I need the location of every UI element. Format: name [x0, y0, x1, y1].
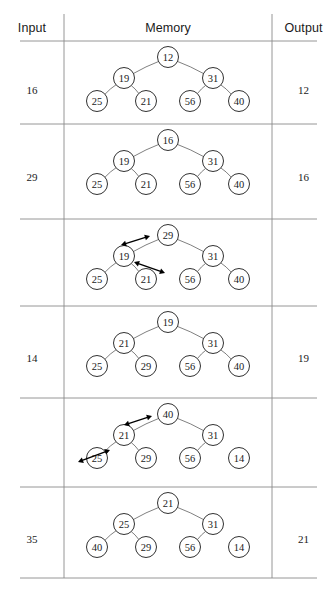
row-4-output-value: 19 [272, 352, 335, 364]
row-4-node-level3-3: 40 [229, 356, 250, 377]
node-value: 29 [163, 230, 174, 241]
node-value: 14 [234, 453, 245, 464]
node-value: 21 [119, 338, 130, 349]
row-3-edge-root-0 [133, 240, 158, 252]
trace-table-figure: Input Memory Output 12193125215640161931… [0, 0, 335, 596]
node-value: 31 [208, 338, 219, 349]
row-2-node-level3-0: 25 [87, 174, 108, 195]
row-6-edge-child-2 [197, 531, 205, 539]
node-value: 21 [163, 498, 174, 509]
node-value: 29 [141, 453, 152, 464]
row-4-node-root: 19 [158, 312, 179, 333]
node-value: 56 [185, 96, 196, 107]
row-2-edge-child-2 [197, 168, 205, 176]
row-4-node-level3-2: 56 [180, 356, 201, 377]
row-3-node-root: 29 [158, 225, 179, 246]
row-3-node-level3-2: 56 [180, 269, 201, 290]
row-6-node-level3-0: 40 [87, 537, 108, 558]
node-value: 25 [92, 361, 103, 372]
row-3-node-level3-0: 25 [87, 269, 108, 290]
row-2-node-level2-1: 31 [203, 151, 224, 172]
node-value: 56 [185, 542, 196, 553]
node-value: 56 [185, 179, 196, 190]
row-2-node-level3-3: 40 [229, 174, 250, 195]
node-value: 19 [119, 73, 130, 84]
row-1-node-level2-0: 19 [114, 68, 135, 89]
row-5-swap-arrow-root-left-shaft [127, 417, 149, 424]
node-value: 40 [234, 179, 245, 190]
row-3-edge-child-2 [197, 263, 205, 271]
row-1-edge-child-2 [197, 85, 205, 93]
row-2-edge-root-0 [133, 145, 158, 157]
row-2-output-value: 16 [272, 171, 335, 183]
row-6-node-level3-3: 14 [229, 537, 250, 558]
row-6-node-level3-2: 56 [180, 537, 201, 558]
row-4-node-level2-1: 31 [203, 333, 224, 354]
node-value: 40 [234, 274, 245, 285]
node-value: 19 [119, 251, 130, 262]
node-value: 31 [208, 73, 219, 84]
node-value: 25 [92, 274, 103, 285]
node-value: 14 [234, 542, 245, 553]
row-5-edge-root-1 [178, 418, 204, 430]
node-value: 40 [163, 409, 174, 420]
row-6-edge-root-0 [133, 508, 158, 520]
row-4-edge-root-1 [178, 326, 204, 338]
node-value: 12 [163, 52, 174, 63]
row-2-edge-child-3 [221, 168, 231, 177]
node-value: 31 [208, 156, 219, 167]
row-2-node-root: 16 [158, 130, 179, 151]
row-3-swap-arrow-root-left-shaft [124, 237, 147, 244]
row-2-node-level2-0: 19 [114, 151, 135, 172]
node-value: 31 [208, 430, 219, 441]
node-value: 29 [141, 542, 152, 553]
node-value: 21 [141, 96, 152, 107]
node-value: 25 [92, 179, 103, 190]
node-value: 56 [185, 274, 196, 285]
node-value: 31 [208, 251, 219, 262]
row-3-node-level2-0: 19 [114, 246, 135, 267]
node-value: 25 [119, 519, 130, 530]
node-value: 16 [163, 135, 174, 146]
node-value: 40 [92, 542, 103, 553]
row-2-edge-child-1 [131, 169, 138, 177]
row-1-node-level2-1: 31 [203, 68, 224, 89]
row-6-node-level2-1: 31 [203, 514, 224, 535]
row-1-node-level3-3: 40 [229, 91, 250, 112]
row-1-node-root: 12 [158, 47, 179, 68]
row-6-edge-child-1 [131, 532, 138, 540]
row-4-edge-child-3 [221, 350, 231, 359]
row-5-node-root: 40 [158, 404, 179, 425]
node-value: 40 [234, 361, 245, 372]
row-6-node-level3-1: 29 [136, 537, 157, 558]
row-4-node-level2-0: 21 [114, 333, 135, 354]
row-2-node-level3-2: 56 [180, 174, 201, 195]
row-1-output-value: 12 [272, 84, 335, 96]
row-3-edge-child-3 [221, 263, 231, 272]
row-6-edge-root-1 [178, 507, 204, 519]
node-value: 21 [119, 430, 130, 441]
node-value: 31 [208, 519, 219, 530]
row-4-node-level3-1: 29 [136, 356, 157, 377]
row-6-edge-child-0 [105, 531, 116, 540]
node-value: 29 [141, 361, 152, 372]
node-value: 56 [185, 361, 196, 372]
row-4-edge-child-2 [197, 350, 205, 358]
row-1-input-value: 16 [0, 84, 64, 96]
row-3-swap-arrow-root-left-head-0 [144, 235, 150, 241]
row-1-edge-child-3 [221, 85, 231, 94]
row-2-edge-root-1 [178, 144, 204, 156]
row-5-node-level3-3: 14 [229, 448, 250, 469]
row-2-input-value: 29 [0, 171, 64, 183]
row-5-node-level2-0: 21 [114, 425, 135, 446]
row-5-node-level3-1: 29 [136, 448, 157, 469]
row-5-edge-child-2 [197, 442, 205, 450]
node-value: 19 [119, 156, 130, 167]
row-1-edge-child-0 [105, 85, 116, 94]
node-value: 21 [141, 179, 152, 190]
row-5-edge-child-1 [131, 443, 138, 451]
row-4-node-level3-0: 25 [87, 356, 108, 377]
row-5-node-level3-2: 56 [180, 448, 201, 469]
row-3-node-level3-1: 21 [136, 269, 157, 290]
row-3-edge-child-0 [105, 263, 116, 272]
